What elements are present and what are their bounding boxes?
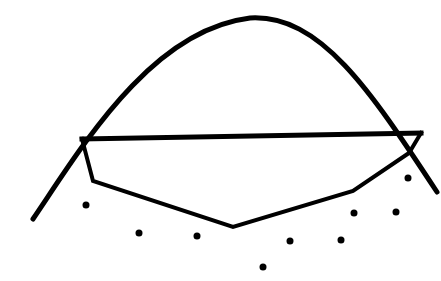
- horizontal-chord-line: [82, 133, 421, 139]
- scatter-dot: [338, 237, 345, 244]
- scatter-dot: [351, 210, 358, 217]
- diagram-svg: [0, 0, 441, 281]
- scatter-dot: [405, 175, 412, 182]
- scatter-dot: [194, 233, 201, 240]
- scatter-dot: [393, 209, 400, 216]
- bell-curve: [33, 18, 437, 219]
- scatter-dot: [287, 238, 294, 245]
- scatter-dot: [136, 230, 143, 237]
- diagram-canvas: [0, 0, 441, 281]
- scatter-dot: [260, 264, 267, 271]
- scatter-dot: [83, 202, 90, 209]
- lower-hull-polyline: [82, 133, 421, 227]
